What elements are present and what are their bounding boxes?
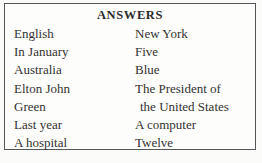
answer-left: Elton John (14, 80, 135, 98)
answer-left: English (14, 25, 135, 43)
answer-right: Blue (135, 61, 251, 79)
page-background: { "panel": { "title": "ANSWERS", "left":… (0, 0, 262, 163)
answer-row: Green the United States (14, 98, 251, 116)
answer-right: New York (135, 25, 251, 43)
answer-left: A hospital (14, 134, 135, 152)
answer-row: Elton John The President of (14, 80, 251, 98)
answer-row: Australia Blue (14, 61, 251, 79)
answer-row: In January Five (14, 43, 251, 61)
answer-row: Last year A computer (14, 116, 251, 134)
answer-right: Twelve (135, 134, 251, 152)
answers-title: ANSWERS (5, 4, 255, 23)
answer-left: In January (14, 43, 135, 61)
answer-row: A hospital Twelve (14, 134, 251, 152)
answer-left: Australia (14, 61, 135, 79)
answer-right-continuation: the United States (135, 98, 251, 116)
answer-left: Green (14, 98, 135, 116)
answer-right: The President of (135, 80, 251, 98)
answer-row: English New York (14, 25, 251, 43)
answer-right: Five (135, 43, 251, 61)
answers-grid: English New York In January Five Austral… (5, 25, 255, 152)
answer-left: Last year (14, 116, 135, 134)
answers-box: ANSWERS English New York In January Five… (4, 3, 256, 150)
answer-right: A computer (135, 116, 251, 134)
